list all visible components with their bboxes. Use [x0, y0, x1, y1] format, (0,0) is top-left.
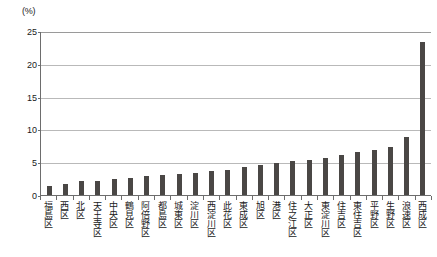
- x-label-slot: 浪速区: [399, 201, 415, 255]
- bar: [63, 184, 68, 195]
- x-label-slot: 西成区: [415, 201, 431, 255]
- bar-chart: (%) 0510152025 福島区西区北区天王寺区中央区鶴見区阿倍野区都島区城…: [0, 0, 437, 257]
- x-axis-category-label: 旭区: [255, 201, 265, 219]
- x-label-slot: 北区: [73, 201, 89, 255]
- x-label-slot: 大正区: [301, 201, 317, 255]
- x-tick-mark: [89, 196, 90, 200]
- x-label-slot: 西淀川区: [203, 201, 219, 255]
- bar: [323, 158, 328, 195]
- x-label-slot: 住之江区: [284, 201, 300, 255]
- x-tick-mark: [236, 196, 237, 200]
- y-tick-label: 25: [27, 28, 37, 37]
- bar: [420, 42, 425, 195]
- bar: [404, 137, 409, 195]
- x-axis-category-label: 城東区: [174, 201, 184, 228]
- x-tick-mark: [138, 196, 139, 200]
- x-axis-ticks: [40, 196, 431, 200]
- bar-slot: [41, 32, 57, 195]
- y-tick-label: 0: [32, 192, 37, 201]
- x-tick-mark: [56, 196, 57, 200]
- x-label-slot: 旭区: [252, 201, 268, 255]
- bar-slot: [399, 32, 415, 195]
- bar: [209, 171, 214, 195]
- x-tick-mark: [121, 196, 122, 200]
- x-axis-category-label: 平野区: [369, 201, 379, 228]
- bar-slot: [269, 32, 285, 195]
- x-axis-category-label: 福島区: [43, 201, 53, 228]
- bar-slot: [350, 32, 366, 195]
- x-tick-mark: [382, 196, 383, 200]
- bar: [355, 152, 360, 195]
- x-tick-mark: [284, 196, 285, 200]
- bar: [112, 179, 117, 195]
- x-axis-category-label: 天王寺区: [92, 201, 102, 237]
- bar-slot: [285, 32, 301, 195]
- bar: [274, 163, 279, 195]
- x-tick-mark: [415, 196, 416, 200]
- x-axis-labels: 福島区西区北区天王寺区中央区鶴見区阿倍野区都島区城東区淀川区西淀川区此花区東成区…: [40, 201, 431, 255]
- x-axis-category-label: 西成区: [418, 201, 428, 228]
- bar-slot: [317, 32, 333, 195]
- y-tick-label: 10: [27, 126, 37, 135]
- bar: [225, 170, 230, 195]
- y-axis-unit-label: (%): [22, 6, 35, 16]
- x-axis-category-label: 西淀川区: [206, 201, 216, 237]
- x-label-slot: 福島区: [40, 201, 56, 255]
- x-tick-mark: [350, 196, 351, 200]
- x-tick-mark: [187, 196, 188, 200]
- x-tick-mark: [431, 196, 432, 200]
- y-tick-label: 20: [27, 60, 37, 69]
- bar: [47, 186, 52, 195]
- bar-slot: [57, 32, 73, 195]
- bar-slot: [334, 32, 350, 195]
- bar: [242, 167, 247, 195]
- bar-slot: [155, 32, 171, 195]
- bar: [95, 181, 100, 195]
- x-tick-mark: [366, 196, 367, 200]
- x-axis-category-label: 都島区: [157, 201, 167, 228]
- x-tick-mark: [73, 196, 74, 200]
- bar-slot: [220, 32, 236, 195]
- bar: [128, 178, 133, 195]
- bar: [388, 147, 393, 195]
- x-label-slot: 都島区: [154, 201, 170, 255]
- x-axis-category-label: 浪速区: [402, 201, 412, 228]
- x-label-slot: 住吉区: [333, 201, 349, 255]
- bar: [160, 175, 165, 195]
- bar-slot: [90, 32, 106, 195]
- bar-slot: [171, 32, 187, 195]
- x-label-slot: 港区: [268, 201, 284, 255]
- x-axis-category-label: 北区: [76, 201, 86, 219]
- x-axis-category-label: 港区: [271, 201, 281, 219]
- x-axis-category-label: 中央区: [108, 201, 118, 228]
- x-axis-category-label: 阿倍野区: [141, 201, 151, 237]
- bar: [144, 176, 149, 195]
- bar: [290, 161, 295, 195]
- x-tick-mark: [268, 196, 269, 200]
- x-label-slot: 東淀川区: [317, 201, 333, 255]
- bar-slot: [252, 32, 268, 195]
- x-axis-category-label: 東淀川区: [320, 201, 330, 237]
- x-tick-mark: [40, 196, 41, 200]
- bar-slot: [106, 32, 122, 195]
- bar: [372, 150, 377, 195]
- x-axis-category-label: 鶴見区: [125, 201, 135, 228]
- bar: [339, 155, 344, 195]
- x-label-slot: 東住吉区: [350, 201, 366, 255]
- bar-slot: [122, 32, 138, 195]
- x-tick-mark: [154, 196, 155, 200]
- bars-container: [41, 32, 431, 195]
- x-label-slot: 淀川区: [187, 201, 203, 255]
- x-axis-category-label: 東住吉区: [353, 201, 363, 237]
- x-axis-category-label: 住吉区: [336, 201, 346, 228]
- x-axis-category-label: 住之江区: [288, 201, 298, 237]
- y-tick-label: 15: [27, 93, 37, 102]
- plot-area: 0510152025: [40, 32, 431, 196]
- x-label-slot: 天王寺区: [89, 201, 105, 255]
- bar: [177, 174, 182, 195]
- x-axis-category-label: 西区: [59, 201, 69, 219]
- bar: [258, 165, 263, 195]
- x-label-slot: 西区: [56, 201, 72, 255]
- bar-slot: [366, 32, 382, 195]
- x-tick-mark: [170, 196, 171, 200]
